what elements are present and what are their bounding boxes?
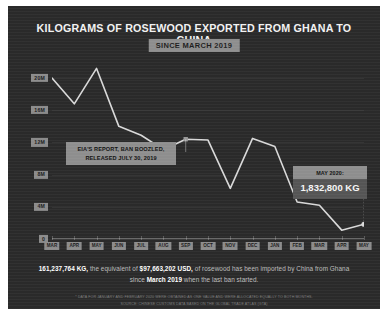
- x-axis-label: JUL: [134, 242, 148, 250]
- y-axis-label: 20M: [31, 74, 48, 82]
- x-axis-label: APR: [67, 242, 82, 250]
- x-axis-tick: [364, 236, 365, 240]
- x-axis: MARAPRMAYJUNJULAUGSEPOCTNOVDECJANFEBMARA…: [52, 240, 364, 252]
- x-axis-label: FEB: [290, 242, 304, 250]
- subtitle-badge: SINCE MARCH 2019: [149, 39, 240, 52]
- x-axis-label: OCT: [201, 242, 216, 250]
- y-axis-label: 8M: [34, 171, 48, 179]
- annotation-eia-report: EIA'S REPORT, BAN BOOZLED, RELEASED JULY…: [66, 142, 176, 165]
- summary-text-1: the equivalent of: [88, 265, 139, 272]
- summary-text-3: when the last ban started.: [182, 276, 258, 283]
- summary-date: March 2019: [147, 276, 182, 283]
- annotation-may-label: MAY 2020:: [297, 169, 363, 177]
- y-axis-label: 4M: [34, 203, 48, 211]
- y-axis-label: 12M: [31, 138, 48, 146]
- y-axis-label: 16M: [31, 106, 48, 114]
- x-axis-label: JUN: [112, 242, 126, 250]
- x-axis-label: APR: [334, 242, 349, 250]
- x-axis-label: SEP: [179, 242, 193, 250]
- footnote-line-1: * DATA FOR JANUARY AND FEBRUARY 2020 WER…: [32, 294, 356, 301]
- annotation-may-value: 1,832,800 KG: [293, 179, 367, 199]
- chart-card: KILOGRAMS OF ROSEWOOD EXPORTED FROM GHAN…: [8, 6, 380, 309]
- x-axis-label: MAY: [357, 242, 372, 250]
- annotation-eia-line2: RELEASED JULY 30, 2019: [85, 155, 156, 161]
- x-axis-label: AUG: [156, 242, 171, 250]
- annotation-may-2020: MAY 2020: 1,832,800 KG: [293, 166, 367, 199]
- x-axis-label: MAR: [44, 242, 59, 250]
- x-axis-label: JAN: [268, 242, 282, 250]
- summary-kg: 161,237,764 KG,: [39, 265, 88, 272]
- y-axis: 04M8M12M16M20M: [22, 62, 48, 239]
- x-axis-label: DEC: [245, 242, 260, 250]
- x-axis-label: NOV: [223, 242, 238, 250]
- x-axis-label: MAR: [312, 242, 327, 250]
- x-axis-label: MAY: [89, 242, 104, 250]
- summary-text: 161,237,764 KG, the equivalent of $97,66…: [32, 264, 356, 285]
- annotation-eia-line1: EIA'S REPORT, BAN BOOZLED,: [78, 146, 165, 152]
- footnote: * DATA FOR JANUARY AND FEBRUARY 2020 WER…: [32, 294, 356, 308]
- summary-usd: $97,663,202 USD,: [140, 265, 193, 272]
- footnote-line-2: SOURCE: CHINESE CUSTOMS DATA BASED ON TH…: [32, 301, 356, 308]
